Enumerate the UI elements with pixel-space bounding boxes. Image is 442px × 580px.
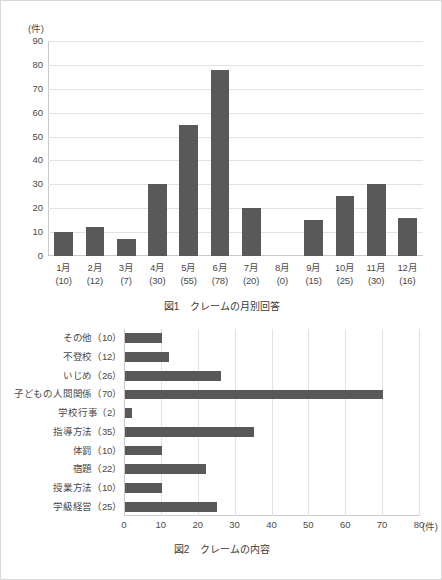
figure-2-category-label: 学級経営（25） (0, 501, 122, 512)
figure-1-x-tick-month: 4月 (142, 261, 173, 274)
figure-2-x-tick-label: 70 (367, 519, 397, 530)
figure-1-caption-title: クレームの月別回答 (190, 301, 280, 312)
figure-1-x-tick-month: 3月 (111, 261, 142, 274)
figure-1-x-tick-month: 11月 (361, 261, 392, 274)
figure-1-x-tick-month: 8月 (267, 261, 298, 274)
figure-1-x-tick-label: 5月(55) (173, 261, 204, 287)
figure-1-bar (148, 184, 167, 256)
figure-1-x-tick-label: 12月(16) (392, 261, 423, 287)
figure-2-category-label: 子どもの人間関係（70） (0, 388, 122, 399)
figure-2-x-unit-label: (件) (422, 519, 438, 533)
figure-1-x-tick-count: (78) (204, 274, 235, 287)
figure-1-x-tick-month: 2月 (79, 261, 110, 274)
figure-2-bar (125, 446, 162, 456)
figure-1-x-tick-labels: 1月(10)2月(12)3月(7)4月(30)5月(55)6月(78)7月(20… (48, 261, 423, 299)
figure-1-bars (48, 41, 423, 256)
figure-2: その他（10）不登校（12）いじめ（26）子どもの人間関係（70）学校行事（2）… (1, 323, 442, 580)
figure-1-x-tick-month: 12月 (392, 261, 423, 274)
figure-1-bar (336, 196, 355, 256)
figure-1-y-tick-label: 60 (3, 108, 43, 118)
figure-2-bar (125, 352, 169, 362)
figure-2-x-tick-label: 20 (183, 519, 213, 530)
figure-1-y-tick-label: 20 (3, 203, 43, 213)
figure-2-plot-area: その他（10）不登校（12）いじめ（26）子どもの人間関係（70）学校行事（2）… (124, 329, 419, 516)
figure-2-gridline (382, 329, 383, 516)
figure-1-y-tick-label: 30 (3, 179, 43, 189)
figure-1-x-tick-month: 7月 (236, 261, 267, 274)
figure-1-y-tick-label: 90 (3, 36, 43, 46)
figure-1-x-tick-count: (55) (173, 274, 204, 287)
figure-1-x-tick-month: 5月 (173, 261, 204, 274)
figure-1-x-tick-label: 11月(30) (361, 261, 392, 287)
figure-1-bar (86, 227, 105, 256)
figure-2-caption-number: 図2 (174, 544, 190, 555)
figure-2-bar (125, 333, 162, 343)
figure-2-bar (125, 427, 254, 437)
figure-1-bar (54, 232, 73, 256)
figure-1-x-tick-label: 10月(25) (329, 261, 360, 287)
figure-2-bar (125, 408, 132, 418)
figure-1-x-tick-label: 8月(0) (267, 261, 298, 287)
figure-2-caption: 図2クレームの内容 (1, 541, 442, 556)
figure-1-y-tick-label: 40 (3, 155, 43, 165)
figure-2-category-label: 宿題（22） (0, 463, 122, 474)
figure-2-x-tick-label: 0 (109, 519, 139, 530)
figure-1-y-tick-label: 70 (3, 84, 43, 94)
figure-2-x-tick-labels: 01020304050607080 (124, 519, 419, 535)
figure-2-x-tick-label: 30 (220, 519, 250, 530)
figure-2-category-labels: その他（10）不登校（12）いじめ（26）子どもの人間関係（70）学校行事（2）… (0, 329, 122, 516)
figure-1-x-tick-count: (10) (48, 274, 79, 287)
figure-1-x-tick-label: 7月(20) (236, 261, 267, 287)
figure-1-x-tick-count: (7) (111, 274, 142, 287)
figure-1-x-tick-month: 9月 (298, 261, 329, 274)
figure-2-bar (125, 464, 206, 474)
figure-2-bar (125, 483, 162, 493)
figure-1-y-unit-label: (件) (28, 21, 44, 35)
figure-1-x-tick-label: 6月(78) (204, 261, 235, 287)
figure-2-caption-title: クレームの内容 (200, 544, 270, 555)
figure-2-category-label: いじめ（26） (0, 370, 122, 381)
figure-1-x-tick-month: 6月 (204, 261, 235, 274)
figure-1-x-tick-count: (25) (329, 274, 360, 287)
figure-1-x-tick-month: 1月 (48, 261, 79, 274)
figure-2-category-label: 学校行事（2） (0, 407, 122, 418)
figure-1-x-tick-count: (20) (236, 274, 267, 287)
figure-1-bar (398, 218, 417, 256)
figure-2-bar (125, 502, 217, 512)
figure-1-bar (367, 184, 386, 256)
figure-1-bar (242, 208, 261, 256)
figure-1-bar (211, 70, 230, 256)
figure-1-bar (179, 125, 198, 256)
figure-1-x-tick-label: 2月(12) (79, 261, 110, 287)
figure-1-x-tick-count: (15) (298, 274, 329, 287)
figure-2-gridline (198, 329, 199, 516)
figure-1-x-tick-count: (0) (267, 274, 298, 287)
figure-1-x-tick-count: (30) (361, 274, 392, 287)
figure-1-x-tick-label: 3月(7) (111, 261, 142, 287)
figure-1-bar (117, 239, 136, 256)
figure-2-x-tick-label: 10 (146, 519, 176, 530)
figure-1-x-tick-month: 10月 (329, 261, 360, 274)
figure-1-y-tick-label: 50 (3, 132, 43, 142)
figure-1-x-tick-count: (16) (392, 274, 423, 287)
figure-1-x-tick-count: (12) (79, 274, 110, 287)
figure-2-category-label: その他（10） (0, 332, 122, 343)
figure-2-category-label: 授業方法（10） (0, 482, 122, 493)
figure-1-x-tick-count: (30) (142, 274, 173, 287)
figure-2-gridline (308, 329, 309, 516)
figure-1-y-tick-label: 80 (3, 60, 43, 70)
document-page: (件) 0102030405060708090 1月(10)2月(12)3月(7… (0, 0, 442, 580)
figure-2-gridline (345, 329, 346, 516)
figure-2-x-tick-label: 60 (330, 519, 360, 530)
figure-1-x-tick-label: 4月(30) (142, 261, 173, 287)
figure-1-y-tick-label: 0 (3, 251, 43, 261)
figure-1-bar (304, 220, 323, 256)
figure-2-gridline (272, 329, 273, 516)
figure-1-caption-number: 図1 (164, 301, 180, 312)
figure-2-bar (125, 371, 221, 381)
figure-2-bar (125, 390, 383, 400)
figure-2-category-label: 指導方法（35） (0, 426, 122, 437)
figure-1-y-tick-label: 10 (3, 227, 43, 237)
figure-2-gridline (419, 329, 420, 516)
figure-1: (件) 0102030405060708090 1月(10)2月(12)3月(7… (1, 1, 442, 319)
